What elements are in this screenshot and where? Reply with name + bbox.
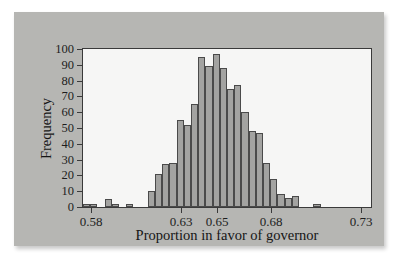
x-tick-mark <box>91 207 92 213</box>
histogram-bar <box>155 174 162 207</box>
y-tick-label: 20 <box>62 169 75 182</box>
y-tick-label: 30 <box>62 153 75 166</box>
y-tick-mark <box>77 207 83 208</box>
y-tick-label: 100 <box>55 43 74 56</box>
histogram-bar <box>105 199 112 207</box>
histogram-bar <box>191 104 198 207</box>
histogram-bar <box>241 112 248 207</box>
y-tick-label: 70 <box>62 90 75 103</box>
y-tick-mark <box>77 65 83 66</box>
histogram-bar <box>263 163 270 207</box>
histogram-bar <box>148 191 155 207</box>
x-tick-label: 0.58 <box>80 215 103 228</box>
figure-panel: Frequency 0102030405060708090100 0.580.6… <box>14 12 384 246</box>
bars-container <box>83 49 371 207</box>
y-tick-mark <box>77 175 83 176</box>
x-tick-label: 0.73 <box>350 215 373 228</box>
histogram-bar <box>292 196 299 207</box>
y-tick-label: 0 <box>68 201 74 214</box>
histogram-bar <box>177 120 184 207</box>
x-tick-mark <box>361 207 362 213</box>
y-tick-label: 80 <box>62 74 75 87</box>
y-tick-mark <box>77 128 83 129</box>
histogram-bar <box>256 133 263 207</box>
y-tick-label: 50 <box>62 122 75 135</box>
x-tick-mark <box>181 207 182 213</box>
y-axis-title: Frequency <box>39 48 55 208</box>
x-tick-mark <box>271 207 272 213</box>
histogram-bar <box>285 198 292 207</box>
histogram-bar <box>249 131 256 207</box>
histogram-bar <box>83 204 90 207</box>
histogram-bar <box>112 204 119 207</box>
histogram-bar <box>234 85 241 207</box>
histogram-bar <box>169 163 176 207</box>
y-tick-label: 10 <box>62 185 75 198</box>
histogram-bar <box>205 66 212 207</box>
y-tick-mark <box>77 49 83 50</box>
histogram-bar <box>198 57 205 207</box>
y-tick-mark <box>77 160 83 161</box>
histogram-figure: Frequency 0102030405060708090100 0.580.6… <box>0 0 398 261</box>
y-tick-mark <box>77 112 83 113</box>
histogram-bar <box>277 194 284 207</box>
y-tick-label: 40 <box>62 138 75 151</box>
histogram-bar <box>220 68 227 207</box>
y-tick-mark <box>77 144 83 145</box>
y-tick-mark <box>77 96 83 97</box>
histogram-bar <box>213 54 220 207</box>
y-tick-label: 60 <box>62 106 75 119</box>
y-axis-title-text: Frequency <box>39 97 56 158</box>
histogram-bar <box>184 125 191 207</box>
x-tick-mark <box>217 207 218 213</box>
plot-area: 0102030405060708090100 0.580.630.650.680… <box>82 48 372 208</box>
histogram-bar <box>270 179 277 207</box>
histogram-bar <box>227 89 234 208</box>
histogram-bar <box>313 204 320 207</box>
y-tick-label: 90 <box>62 59 75 72</box>
histogram-bar <box>162 164 169 207</box>
histogram-bar <box>126 204 133 207</box>
y-tick-mark <box>77 191 83 192</box>
y-tick-mark <box>77 81 83 82</box>
x-axis-title: Proportion in favor of governor <box>82 228 372 243</box>
